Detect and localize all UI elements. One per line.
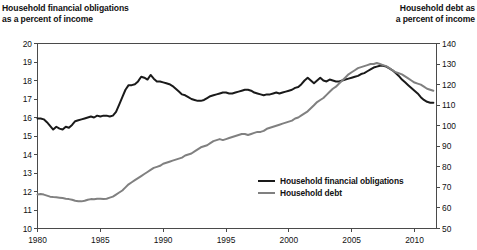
- chart-plot: 1011121314151617181920506070809010011012…: [0, 0, 477, 250]
- chart-container: Household financial obligations as a per…: [0, 0, 477, 250]
- y-tick-label-right: 120: [442, 80, 456, 90]
- y-tick-label-left: 19: [23, 57, 33, 67]
- x-tick-label: 1985: [91, 235, 110, 245]
- y-tick-label-right: 80: [442, 162, 452, 172]
- legend-label: Household financial obligations: [280, 176, 403, 186]
- y-tick-label-left: 14: [23, 150, 33, 160]
- y-tick-label-left: 16: [23, 113, 33, 123]
- y-tick-label-right: 50: [442, 224, 452, 234]
- y-tick-label-right: 60: [442, 203, 452, 213]
- legend-swatch-line-icon: [258, 180, 275, 183]
- axes-group: [34, 44, 440, 233]
- y-tick-label-left: 18: [23, 76, 33, 86]
- y-tick-label-right: 140: [442, 39, 456, 49]
- series-line-1: [38, 66, 434, 130]
- y-tick-label-left: 10: [23, 224, 33, 234]
- y-tick-label-right: 70: [442, 182, 452, 192]
- y-tick-label-right: 130: [442, 59, 456, 69]
- x-tick-label: 2000: [280, 235, 299, 245]
- y-tick-label-left: 17: [23, 94, 33, 104]
- x-tick-label: 2005: [342, 235, 361, 245]
- legend-item[interactable]: Household debt: [258, 187, 403, 199]
- y-tick-label-left: 13: [23, 168, 33, 178]
- y-tick-label-right: 110: [442, 100, 456, 110]
- y-tick-label-right: 90: [442, 141, 452, 151]
- chart-legend: Household financial obligationsHousehold…: [258, 175, 403, 199]
- x-tick-label: 1980: [28, 235, 47, 245]
- legend-item[interactable]: Household financial obligations: [258, 175, 403, 187]
- y-tick-label-right: 100: [442, 121, 456, 131]
- x-tick-label: 2010: [405, 235, 424, 245]
- x-tick-label: 1990: [154, 235, 173, 245]
- y-tick-label-left: 15: [23, 131, 33, 141]
- y-tick-label-left: 20: [23, 39, 33, 49]
- x-tick-label: 1995: [217, 235, 236, 245]
- legend-label: Household debt: [280, 188, 342, 198]
- y-tick-label-left: 12: [23, 187, 33, 197]
- y-tick-label-left: 11: [23, 205, 32, 215]
- legend-swatch-line-icon: [258, 192, 275, 195]
